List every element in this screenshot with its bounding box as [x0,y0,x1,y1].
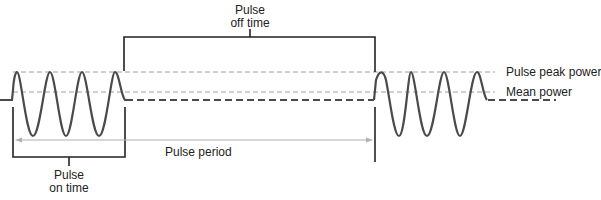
waveform-pulse-1 [0,72,126,136]
on-time-label-line2: on time [49,182,88,195]
period-label: Pulse period [165,146,232,159]
off-time-bracket [124,37,375,72]
peak-power-label: Pulse peak power [506,66,601,79]
period-arrow-left-head [15,138,22,143]
period-arrow-right-head [366,138,373,143]
off-time-label: Pulse off time [230,4,269,30]
off-time-label-line2: off time [230,17,269,30]
mean-power-label: Mean power [506,86,572,99]
on-time-label: Pulse on time [49,169,88,195]
waveform-pulse-2 [374,72,487,136]
